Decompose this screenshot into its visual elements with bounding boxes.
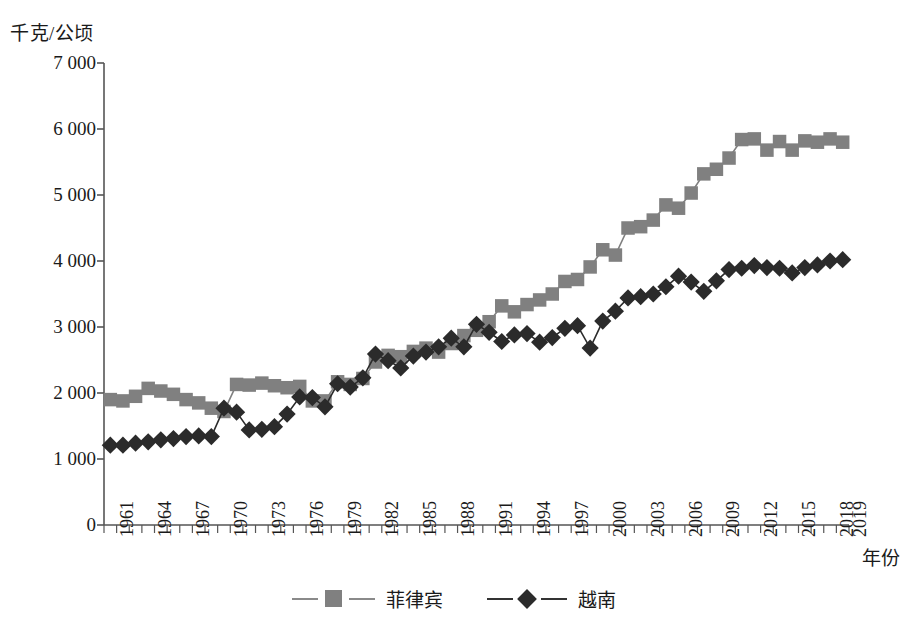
x-tick-label: 1982 (382, 501, 403, 537)
x-tick-label: 1979 (345, 501, 366, 537)
legend-line-philippines (292, 598, 318, 600)
x-tick-label: 1985 (420, 501, 441, 537)
x-tick-label: 1997 (572, 501, 593, 537)
legend-square-marker-icon (325, 590, 342, 607)
y-axis-ticks (97, 63, 104, 525)
x-tick-label: 1961 (117, 501, 138, 537)
x-tick-label: 2009 (723, 501, 744, 537)
legend-line-philippines-right (349, 598, 375, 600)
legend-line-vietnam (487, 598, 513, 600)
legend-label-philippines: 菲律宾 (386, 585, 443, 612)
x-tick-label: 2006 (686, 501, 707, 537)
legend-entry-vietnam: 越南 (487, 585, 616, 612)
x-axis-title: 年份 (862, 543, 900, 570)
data-series-layer (102, 132, 852, 454)
series-vietnam (102, 251, 852, 454)
x-tick-label: 1976 (307, 501, 328, 537)
x-tick-label: 1973 (269, 501, 290, 537)
legend-line-vietnam-right (541, 598, 567, 600)
chart-legend: 菲律宾 越南 (0, 585, 908, 612)
x-tick-label: 1994 (534, 501, 555, 537)
legend-entry-philippines: 菲律宾 (292, 585, 443, 612)
x-tick-label: 1970 (231, 501, 252, 537)
x-tick-label: 1988 (458, 501, 479, 537)
x-tick-label: 2003 (648, 501, 669, 537)
axis-lines (104, 63, 849, 525)
legend-label-vietnam: 越南 (578, 585, 616, 612)
x-tick-label: 1991 (496, 501, 517, 537)
x-tick-label: 1964 (155, 501, 176, 537)
series-philippines (104, 132, 850, 418)
x-tick-label: 2015 (799, 501, 820, 537)
x-tick-label: 2019 (850, 501, 871, 537)
legend-diamond-marker-icon (517, 589, 537, 609)
x-tick-label: 1967 (193, 501, 214, 537)
yield-line-chart: 千克/公顷 7 0006 0005 0004 0003 0002 0001 00… (0, 0, 908, 617)
x-tick-label: 2012 (761, 501, 782, 537)
x-tick-label: 2000 (610, 501, 631, 537)
